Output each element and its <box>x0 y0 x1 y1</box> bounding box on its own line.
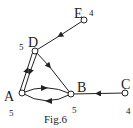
arrow-B-A <box>45 98 52 104</box>
directed-graph: E 4 D 5 A 5 B 5 C 4 Fig.6 <box>0 0 133 128</box>
node-weight-B: 5 <box>72 105 77 115</box>
node-weight-A: 5 <box>9 108 14 118</box>
node-label-A: A <box>4 89 15 104</box>
node-weight-D: 5 <box>19 42 24 52</box>
figure-caption: Fig.6 <box>44 113 67 125</box>
edge-A-B <box>22 88 71 94</box>
node-weight-E: 4 <box>89 8 94 18</box>
node-label-D: D <box>28 35 38 50</box>
edge-E-D <box>35 20 84 51</box>
node-B <box>68 91 74 97</box>
node-label-E: E <box>74 6 83 21</box>
edge-B-A <box>22 93 71 101</box>
node-label-C: C <box>121 77 130 92</box>
node-A <box>19 90 25 96</box>
arrow-A-B <box>41 85 48 91</box>
edge-A-D <box>20 51 33 91</box>
node-weight-C: 4 <box>126 106 131 116</box>
node-label-B: B <box>77 80 86 95</box>
